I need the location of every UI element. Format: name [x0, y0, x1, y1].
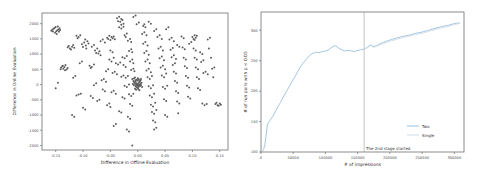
x-tick-label: -0.15	[51, 154, 60, 158]
scatter-point	[57, 26, 59, 28]
scatter-point	[152, 84, 154, 86]
scatter-point	[175, 58, 177, 60]
scatter-point	[107, 68, 109, 70]
scatter-point	[145, 34, 147, 36]
scatter-point	[90, 95, 92, 97]
scatter-point	[202, 59, 204, 61]
scatter-point	[186, 67, 188, 69]
scatter-point	[64, 69, 66, 71]
scatter-point	[144, 26, 146, 28]
x-tick-label: -0.05	[106, 154, 115, 158]
scatter-point	[194, 57, 196, 59]
scatter-point	[123, 74, 125, 76]
scatter-point	[128, 93, 130, 95]
scatter-point	[151, 75, 153, 77]
scatter-point	[172, 47, 174, 49]
scatter-point	[120, 76, 122, 78]
scatter-point	[115, 123, 117, 125]
scatter-point	[127, 116, 129, 118]
scatter-point	[166, 85, 168, 87]
x-tick-label: 100000	[319, 156, 333, 160]
scatter-panel: -0.15-0.10-0.050.000.050.100.15-2000-150…	[0, 0, 239, 184]
y-tick-label: -2000	[28, 144, 39, 148]
scatter-point	[170, 49, 172, 51]
scatter-point	[103, 78, 105, 80]
scatter-point	[133, 81, 135, 83]
scatter-point	[117, 20, 119, 22]
scatter-point	[196, 76, 198, 78]
scatter-point	[70, 49, 72, 51]
scatter-point	[207, 73, 209, 75]
scatter-point	[123, 64, 125, 66]
scatter-point	[207, 38, 209, 40]
scatter-point	[143, 52, 145, 54]
scatter-plot: -0.15-0.10-0.050.000.050.100.15-2000-150…	[0, 0, 239, 184]
scatter-point	[149, 62, 151, 64]
scatter-point	[145, 70, 147, 72]
scatter-point	[124, 57, 126, 59]
scatter-point	[160, 66, 162, 68]
scatter-point	[175, 90, 177, 92]
scatter-point	[154, 102, 156, 104]
figure-container: -0.15-0.10-0.050.000.050.100.15-2000-150…	[0, 0, 478, 184]
scatter-point	[131, 105, 133, 107]
y-tick-label: 1500	[29, 37, 39, 41]
scatter-point	[84, 38, 86, 40]
scatter-point	[108, 59, 110, 61]
scatter-point	[159, 57, 161, 59]
x-axis-title: Difference in Offline Evaluation	[101, 160, 170, 165]
scatter-point	[196, 35, 198, 37]
scatter-point	[100, 54, 102, 56]
scatter-point	[178, 102, 180, 104]
scatter-point	[177, 92, 179, 94]
scatter-point	[183, 57, 185, 59]
scatter-point	[150, 104, 152, 106]
scatter-point	[142, 25, 144, 27]
scatter-point	[108, 102, 110, 104]
scatter-point	[62, 65, 64, 67]
scatter-point	[148, 85, 150, 87]
legend-label-single: Single	[422, 133, 435, 138]
scatter-point	[155, 127, 157, 129]
scatter-point	[67, 67, 69, 69]
scatter-point	[150, 87, 152, 89]
scatter-point	[93, 63, 95, 65]
scatter-point	[75, 95, 77, 97]
stage-annotation: The 2nd stage started	[365, 146, 411, 151]
scatter-point	[176, 101, 178, 103]
y-tick-label: 150	[251, 120, 259, 124]
scatter-point	[141, 82, 143, 84]
scatter-point	[125, 77, 127, 79]
scatter-point	[138, 21, 140, 23]
scatter-point	[109, 106, 111, 108]
scatter-point	[164, 68, 166, 70]
x-tick-label: 0.10	[188, 154, 197, 158]
scatter-point	[152, 105, 154, 107]
scatter-point	[110, 60, 112, 62]
scatter-point	[161, 38, 163, 40]
scatter-point	[108, 35, 110, 37]
scatter-point	[185, 59, 187, 61]
line-panel: 0500001000001500002000002500003000001001…	[239, 0, 478, 184]
scatter-point	[98, 99, 100, 101]
scatter-point	[119, 21, 121, 23]
scatter-point	[174, 62, 176, 64]
scatter-point	[136, 23, 138, 25]
scatter-point	[118, 26, 120, 28]
scatter-point	[199, 51, 201, 53]
scatter-point	[94, 49, 96, 51]
scatter-point	[131, 59, 133, 61]
scatter-point	[74, 75, 76, 77]
scatter-point	[210, 57, 212, 59]
scatter-point	[73, 47, 75, 49]
scatter-point	[176, 82, 178, 84]
x-tick-label: 50000	[288, 156, 300, 160]
x-tick-label: -0.10	[78, 154, 88, 158]
scatter-point	[152, 119, 154, 121]
scatter-point	[161, 74, 163, 76]
scatter-point	[71, 114, 73, 116]
scatter-point	[186, 85, 188, 87]
scatter-point	[151, 96, 153, 98]
scatter-point	[145, 50, 147, 52]
scatter-point	[113, 57, 115, 59]
